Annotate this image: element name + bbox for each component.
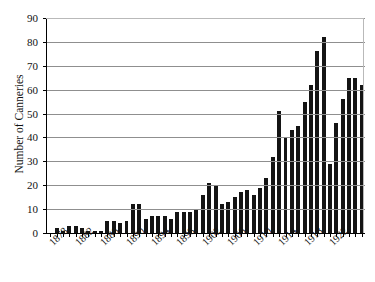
y-tick-label: 80	[12, 36, 38, 48]
bar	[245, 190, 249, 233]
y-tick-mark	[43, 137, 47, 138]
y-tick-label: 60	[12, 84, 38, 96]
bar	[277, 111, 281, 233]
y-tick-mark	[43, 209, 47, 210]
bar	[194, 209, 198, 233]
gridline	[47, 185, 365, 186]
x-tick-mark	[196, 233, 197, 237]
x-tick-mark	[120, 233, 121, 237]
y-tick-mark	[43, 161, 47, 162]
bar	[252, 195, 256, 233]
y-tick-label: 50	[12, 108, 38, 120]
bar	[341, 99, 345, 233]
bar	[360, 85, 364, 233]
cannery-bar-chart: Number of Canneries 01020304050607080901…	[0, 0, 375, 282]
y-tick-mark	[43, 66, 47, 67]
gridline	[47, 42, 365, 43]
bar	[226, 202, 230, 233]
bar	[258, 188, 262, 233]
x-tick-mark	[349, 233, 350, 237]
y-tick-mark	[43, 233, 47, 234]
bar	[175, 212, 179, 234]
y-tick-label: 0	[12, 227, 38, 239]
x-tick-mark	[298, 233, 299, 237]
bar	[125, 221, 129, 233]
bar	[296, 126, 300, 234]
bar	[303, 102, 307, 233]
bar	[290, 130, 294, 233]
gridline	[47, 209, 365, 210]
x-tick-mark	[69, 233, 70, 237]
gridline	[47, 90, 365, 91]
bar-series	[47, 18, 365, 233]
bar	[74, 226, 78, 233]
bar	[328, 164, 332, 233]
gridline	[47, 137, 365, 138]
bar	[150, 216, 154, 233]
y-tick-label: 10	[12, 203, 38, 215]
bar	[309, 85, 313, 233]
bar	[271, 157, 275, 233]
y-tick-mark	[43, 18, 47, 19]
plot-area	[46, 18, 365, 234]
y-tick-label: 90	[12, 12, 38, 24]
x-tick-mark	[355, 233, 356, 237]
y-tick-mark	[43, 114, 47, 115]
y-tick-label: 40	[12, 131, 38, 143]
y-tick-label: 20	[12, 179, 38, 191]
y-tick-mark	[43, 185, 47, 186]
x-tick-mark	[247, 233, 248, 237]
y-tick-label: 70	[12, 60, 38, 72]
y-tick-mark	[43, 90, 47, 91]
bar	[315, 51, 319, 233]
bar	[334, 123, 338, 233]
x-tick-mark	[362, 233, 363, 237]
y-tick-mark	[43, 42, 47, 43]
bar	[207, 183, 211, 233]
y-tick-label: 30	[12, 155, 38, 167]
x-tick-mark	[171, 233, 172, 237]
gridline	[47, 161, 365, 162]
gridline	[47, 114, 365, 115]
gridline	[47, 66, 365, 67]
bar	[201, 195, 205, 233]
x-tick-mark	[222, 233, 223, 237]
gridline	[47, 18, 365, 19]
